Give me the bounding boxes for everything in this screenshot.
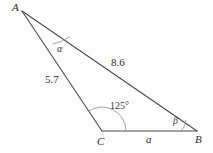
vertex-label-c: C (97, 136, 104, 147)
segment-ab (22, 11, 197, 131)
side-label-cb: a (146, 134, 152, 145)
side-label-ac: 5.7 (45, 74, 59, 85)
segment-ac (22, 11, 102, 131)
vertex-label-a: A (12, 2, 19, 13)
angle-label-gamma: 125° (110, 101, 129, 111)
vertex-label-b: B (195, 134, 202, 145)
angle-label-alpha: α (57, 44, 62, 54)
angle-label-beta: β (173, 116, 178, 126)
triangle-figure (0, 0, 213, 153)
side-label-ab: 8.6 (111, 57, 125, 68)
triangle-diagram: A C B 8.6 5.7 a α 125° β (0, 0, 213, 153)
